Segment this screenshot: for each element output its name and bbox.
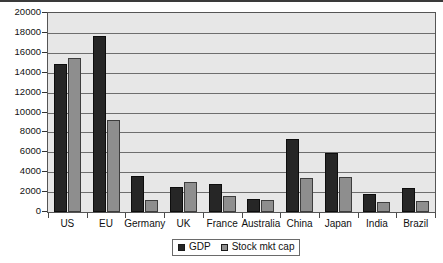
bar-chart: 0200040006000800010000120001400016000180… [0,0,443,263]
y-tick-label: 18000 [0,27,41,37]
bar-china-stock-mkt-cap [300,178,313,212]
bar-japan-stock-mkt-cap [339,177,352,212]
bar-germany-stock-mkt-cap [145,200,158,212]
x-tick-label-china: China [286,217,312,230]
x-axis-separator [48,213,49,218]
bar-eu-gdp [93,36,106,212]
x-axis: USEUGermanyUKFranceAustraliaChinaJapanIn… [48,217,435,233]
y-tick-label: 4000 [0,166,41,176]
x-axis-separator [125,213,126,218]
x-tick-label-eu: EU [99,217,113,230]
y-tick-label: 0 [0,206,41,216]
bar-eu-stock-mkt-cap [107,120,120,212]
x-axis-separator [203,213,204,218]
x-tick-label-uk: UK [176,217,190,230]
y-tick-label: 16000 [0,47,41,57]
bars-layer [48,13,435,212]
bar-india-gdp [363,194,376,212]
x-axis-separator [242,213,243,218]
bar-france-stock-mkt-cap [223,196,236,212]
x-axis-separator [280,213,281,218]
x-tick-label-australia: Australia [241,217,280,230]
bar-australia-stock-mkt-cap [261,200,274,212]
bar-china-gdp [286,139,299,212]
x-tick-label-india: India [366,217,388,230]
legend-swatch-icon [221,244,228,251]
bar-germany-gdp [131,176,144,212]
bar-brazil-gdp [402,188,415,212]
bar-uk-gdp [170,187,183,212]
y-axis: 0200040006000800010000120001400016000180… [0,12,41,213]
bar-india-stock-mkt-cap [377,202,390,212]
legend-item-gdp: GDP [178,241,211,253]
bar-us-gdp [54,64,67,212]
x-axis-separator [358,213,359,218]
bar-uk-stock-mkt-cap [184,182,197,212]
x-tick-label-japan: Japan [325,217,352,230]
y-tick-label: 8000 [0,126,41,136]
x-axis-separator [435,213,436,218]
legend-label: GDP [189,241,211,253]
bar-us-stock-mkt-cap [68,58,81,212]
y-tick-label: 12000 [0,87,41,97]
chart-legend: GDPStock mkt cap [172,239,300,256]
x-tick-label-brazil: Brazil [403,217,428,230]
bar-japan-gdp [325,153,338,212]
x-tick-label-france: France [207,217,238,230]
bar-australia-gdp [247,199,260,212]
legend-label: Stock mkt cap [232,241,295,253]
x-axis-separator [87,213,88,218]
top-border-rule [0,0,443,2]
x-axis-separator [164,213,165,218]
bar-france-gdp [209,184,222,212]
x-tick-label-germany: Germany [124,217,165,230]
x-axis-separator [319,213,320,218]
y-tick-label: 10000 [0,107,41,117]
legend-item-stock-mkt-cap: Stock mkt cap [221,241,295,253]
y-tick-label: 2000 [0,186,41,196]
y-tick-label: 14000 [0,67,41,77]
y-tick-label: 6000 [0,146,41,156]
legend-swatch-icon [178,244,185,251]
x-axis-separator [396,213,397,218]
x-tick-label-us: US [60,217,74,230]
y-tick-label: 20000 [0,7,41,17]
bar-brazil-stock-mkt-cap [416,201,429,212]
